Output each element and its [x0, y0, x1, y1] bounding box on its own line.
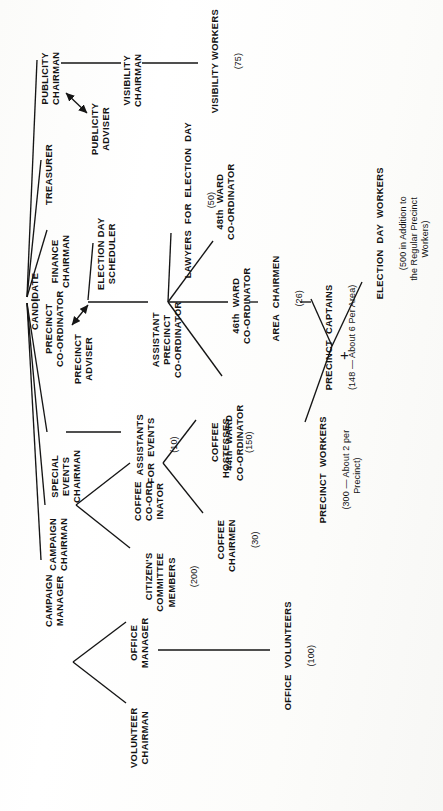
node-citizens-committee-members[interactable]: CITIZEN'S COMMITTEE MEMBERS (200) — [133, 553, 211, 612]
node-treasurer[interactable]: TREASURER — [44, 144, 55, 205]
node-area-chairmen-count: (26) — [294, 290, 304, 306]
node-precinct-workers-label: PRECINCT WORKERS — [318, 416, 328, 523]
node-election-day-workers-count: (500 in Addition to the Regular Precinct… — [398, 196, 430, 281]
node-precinct-workers[interactable]: PRECINCT WORKERS (300 — About 2 per Prec… — [307, 416, 374, 535]
plus-symbol: + — [336, 351, 351, 360]
node-campaign-manager[interactable]: CAMPAIGN MANAGER — [44, 574, 66, 627]
node-citizens-count: (200) — [189, 566, 199, 588]
node-election-day-workers-label: ELECTION DAY WORKERS — [375, 167, 385, 299]
edge-campaign-chairman-citizens — [76, 505, 130, 548]
node-visibility-chairman[interactable]: VISIBILITY CHAIRMAN — [122, 54, 144, 107]
node-area-chairmen[interactable]: AREA CHAIRMEN (26) — [260, 255, 316, 353]
node-coffee-coordinator[interactable]: COFFEE CO-ORD INATOR — [133, 481, 167, 521]
node-office-volunteers-label: OFFICE VOLUNTEERS — [283, 601, 293, 710]
node-precinct-workers-count: (300 — About 2 per Precinct) — [341, 430, 362, 510]
edge-publicity-adviser — [66, 93, 87, 113]
node-office-volunteers-count: (100) — [306, 645, 316, 667]
node-election-day-workers[interactable]: ELECTION DAY WORKERS (500 in Addition to… — [364, 167, 442, 311]
edge-campaign-chairman-coffee-coordinator — [76, 463, 130, 505]
node-office-volunteers[interactable]: OFFICE VOLUNTEERS (100) — [272, 601, 328, 722]
edge-campaign-manager-volunteer-chairman — [73, 662, 126, 703]
node-ward-46-coordinator[interactable]: 46th WARD CO-ORDINATOR — [231, 267, 253, 344]
node-coffee-hostesses-label: COFFEE HOSTESSES — [210, 418, 231, 478]
node-precinct-captains[interactable]: PRECINCT CAPTAINS (148 — About 6 Per Are… — [313, 284, 369, 402]
node-coffee-chairmen-label: COFFEE CHAIRMEN — [216, 519, 237, 572]
edge-assistant-lawyers — [168, 233, 171, 302]
node-candidate[interactable]: CANDIDATE — [30, 273, 41, 330]
node-precinct-captains-count: (148 — About 6 Per Area) — [347, 285, 357, 390]
node-finance-chairman[interactable]: FINANCE CHAIRMAN — [50, 235, 72, 288]
node-coffee-hostesses-count: (150) — [244, 431, 254, 453]
node-visibility-workers-label: VISIBILITY WORKERS — [210, 9, 220, 113]
node-volunteer-chairman[interactable]: VOLUNTEER CHAIRMAN — [129, 708, 151, 768]
node-assistants-for-events-count: (10) — [169, 436, 179, 452]
edge-precinct-coordinator-election-day-scheduler — [88, 243, 93, 300]
node-special-events-chairman[interactable]: SPECIAL EVENTS CHAIRMAN — [50, 450, 84, 503]
node-assistants-for-events[interactable]: ASSISTANTS FOR EVENTS (10) — [124, 414, 191, 487]
edge-candidate-publicity-chairman — [27, 60, 37, 297]
edge-campaign-manager-office-manager — [73, 622, 126, 662]
node-visibility-workers-count: (75) — [233, 53, 243, 69]
node-precinct-captains-label: PRECINCT CAPTAINS — [324, 284, 334, 390]
node-coffee-chairmen[interactable]: COFFEE CHAIRMEN (30) — [205, 519, 272, 572]
node-assistant-precinct-coordinator[interactable]: ASSISTANT PRECINCT CO-ORDINATOR — [151, 301, 185, 378]
org-chart-page: CANDIDATE CAMPAIGN MANAGER CAMPAIGN CHAI… — [0, 0, 443, 811]
node-campaign-chairman[interactable]: CAMPAIGN CHAIRMAN — [48, 518, 70, 571]
node-lawyers-label: LAWYERS FOR ELECTION DAY — [183, 122, 193, 278]
node-coffee-hostesses[interactable]: COFFEE HOSTESSES (150) — [199, 418, 266, 478]
node-coffee-chairmen-count: (30) — [250, 531, 260, 547]
edge-precinct-adviser — [72, 305, 88, 325]
node-ward-48-coordinator[interactable]: 48th WARD CO-ORDINATOR — [215, 163, 237, 240]
node-assistants-for-events-label: ASSISTANTS FOR EVENTS — [135, 414, 156, 483]
node-publicity-chairman[interactable]: PUBLICITY CHAIRMAN — [40, 52, 62, 105]
node-election-day-scheduler[interactable]: ELECTION DAY SCHEDULER — [96, 217, 118, 290]
node-publicity-adviser[interactable]: PUBLICITY ADVISER — [90, 103, 112, 155]
node-precinct-adviser[interactable]: PRECINCT ADVISER — [73, 334, 95, 384]
node-visibility-workers[interactable]: VISIBILITY WORKERS (75) — [199, 9, 255, 125]
node-area-chairmen-label: AREA CHAIRMEN — [271, 255, 281, 341]
node-citizens-label: CITIZEN'S COMMITTEE MEMBERS — [144, 553, 176, 612]
node-precinct-coordinator[interactable]: PRECINCT CO-ORDINATOR — [44, 290, 66, 367]
node-office-manager[interactable]: OFFICE MANAGER — [129, 618, 151, 668]
